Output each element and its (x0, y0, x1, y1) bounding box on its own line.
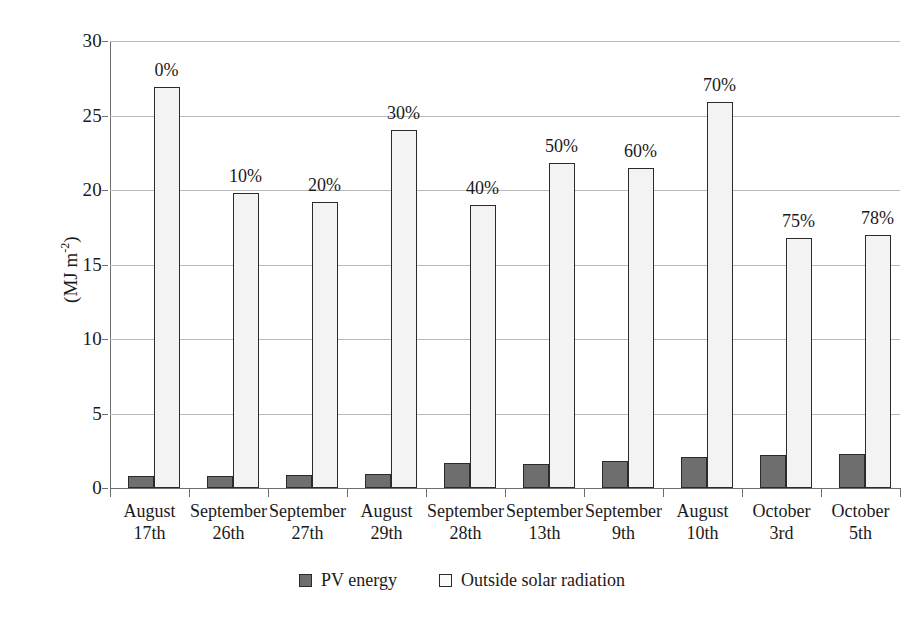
y-axis-tick-label: 25 (68, 106, 102, 125)
y-axis-tick-label: 20 (68, 180, 102, 199)
bar-group: 10% (207, 41, 259, 488)
x-axis-category-label: September28th (420, 500, 511, 544)
bar-outside-solar-radiation (470, 205, 496, 488)
x-axis-category-label-line: August (341, 500, 432, 522)
legend-item: Outside solar radiation (439, 570, 625, 591)
plot-area: 0%10%20%30%40%50%60%70%75%78% (110, 41, 900, 488)
x-axis-category-label: September9th (578, 500, 669, 544)
bar-pv-energy (602, 461, 628, 488)
bar-value-label: 50% (545, 137, 578, 155)
x-axis-category-label-line: 10th (657, 522, 748, 544)
legend-item-label: PV energy (321, 570, 397, 591)
bar-value-label: 40% (466, 179, 499, 197)
x-axis-category-label: August17th (104, 500, 195, 544)
x-axis-category-label: August10th (657, 500, 748, 544)
x-axis-category-label-line: 29th (341, 522, 432, 544)
x-axis-tick-mark (426, 488, 427, 497)
bar-outside-solar-radiation (549, 163, 575, 488)
x-axis-category-label-line: September (420, 500, 511, 522)
bar-pv-energy (286, 475, 312, 488)
bar-value-label: 0% (155, 61, 179, 79)
bar-value-label: 20% (308, 176, 341, 194)
x-axis-category-label-line: September (499, 500, 590, 522)
bar-value-label: 30% (387, 104, 420, 122)
legend-item: PV energy (299, 570, 397, 591)
x-axis-category-label: October3rd (736, 500, 827, 544)
legend-item-label: Outside solar radiation (461, 570, 625, 591)
bar-pv-energy (681, 457, 707, 488)
bar-pv-energy (523, 464, 549, 488)
bar-outside-solar-radiation (707, 102, 733, 488)
x-axis-tick-mark (584, 488, 585, 497)
bar-outside-solar-radiation (865, 235, 891, 488)
x-axis-category-label-line: 9th (578, 522, 669, 544)
bar-value-label: 78% (861, 209, 894, 227)
bar-group: 70% (681, 41, 733, 488)
bar-group: 20% (286, 41, 338, 488)
x-axis-tick-mark (900, 488, 901, 497)
chart-figure: (MJ m-2) 051015202530 0%10%20%30%40%50%6… (0, 0, 924, 619)
bar-group: 78% (839, 41, 891, 488)
x-axis-tick-mark (110, 488, 111, 497)
y-axis-tick-mark (102, 190, 108, 191)
x-axis-category-label: September26th (183, 500, 274, 544)
x-axis-category-label-line: 17th (104, 522, 195, 544)
legend-swatch-outside-solar-radiation-icon (439, 574, 452, 587)
bar-outside-solar-radiation (391, 130, 417, 488)
x-axis-tick-mark (742, 488, 743, 497)
x-axis-tick-mark (663, 488, 664, 497)
y-axis-tick-label: 15 (68, 255, 102, 274)
x-axis-category-label-line: September (183, 500, 274, 522)
bar-group: 50% (523, 41, 575, 488)
y-axis-tick-labels: 051015202530 (62, 41, 102, 488)
y-axis-tick-mark (102, 41, 108, 42)
bar-outside-solar-radiation (154, 87, 180, 488)
x-axis-category-label-line: September (262, 500, 353, 522)
bar-group: 0% (128, 41, 180, 488)
bar-group: 60% (602, 41, 654, 488)
x-axis-tick-mark (505, 488, 506, 497)
x-axis-tick-labels: August17thSeptember26thSeptember27thAugu… (110, 500, 900, 560)
bar-group: 40% (444, 41, 496, 488)
y-axis-tick-mark (102, 488, 108, 489)
x-axis-category-label: September27th (262, 500, 353, 544)
x-axis-category-label-line: 13th (499, 522, 590, 544)
bar-outside-solar-radiation (233, 193, 259, 488)
y-axis-tick-label: 5 (68, 404, 102, 423)
bar-value-label: 70% (703, 76, 736, 94)
y-axis-tick-label: 10 (68, 329, 102, 348)
x-axis-category-label-line: 26th (183, 522, 274, 544)
bar-outside-solar-radiation (312, 202, 338, 488)
bar-pv-energy (444, 463, 470, 488)
x-axis-category-label: August29th (341, 500, 432, 544)
x-axis-tick-mark (347, 488, 348, 497)
x-axis-category-label: October5th (815, 500, 906, 544)
x-axis-ticks (110, 488, 900, 497)
x-axis-tick-mark (189, 488, 190, 497)
y-axis-tick-mark (102, 116, 108, 117)
bar-pv-energy (760, 455, 786, 488)
x-axis-category-label-line: 28th (420, 522, 511, 544)
y-axis-tick-mark (102, 339, 108, 340)
bar-group: 75% (760, 41, 812, 488)
bar-pv-energy (207, 476, 233, 488)
bar-pv-energy (365, 474, 391, 488)
x-axis-category-label-line: August (104, 500, 195, 522)
x-axis-category-label: September13th (499, 500, 590, 544)
bar-pv-energy (839, 454, 865, 488)
bar-pv-energy (128, 476, 154, 488)
x-axis-category-label-line: August (657, 500, 748, 522)
bar-value-label: 60% (624, 142, 657, 160)
bar-group: 30% (365, 41, 417, 488)
y-axis-tick-mark (102, 265, 108, 266)
x-axis-category-label-line: 3rd (736, 522, 827, 544)
y-axis-tick-mark (102, 414, 108, 415)
x-axis-category-label-line: October (815, 500, 906, 522)
bar-outside-solar-radiation (628, 168, 654, 488)
x-axis-category-label-line: 27th (262, 522, 353, 544)
x-axis-tick-mark (268, 488, 269, 497)
bar-value-label: 75% (782, 212, 815, 230)
bar-outside-solar-radiation (786, 238, 812, 488)
x-axis-category-label-line: 5th (815, 522, 906, 544)
y-axis-tick-label: 30 (68, 31, 102, 50)
